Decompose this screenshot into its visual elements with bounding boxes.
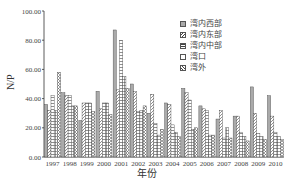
bar xyxy=(216,119,219,157)
x-tick-label: 1998 xyxy=(63,160,78,168)
bar xyxy=(75,106,78,157)
bar xyxy=(229,138,232,157)
bar xyxy=(202,109,205,157)
bar xyxy=(205,110,208,157)
y-tick-label: 20.00 xyxy=(25,124,41,132)
x-tick-label: 2006 xyxy=(200,160,215,168)
bar xyxy=(102,103,105,157)
bar xyxy=(236,116,239,157)
bar xyxy=(133,91,136,157)
bar xyxy=(219,110,222,157)
x-tick-label: 2003 xyxy=(148,160,163,168)
bar xyxy=(85,103,88,157)
bar xyxy=(222,138,225,157)
bar xyxy=(233,116,236,157)
bar xyxy=(212,135,215,157)
y-tick-label: 0.00 xyxy=(29,154,42,162)
bar xyxy=(277,137,280,157)
x-tick-label: 2000 xyxy=(97,160,112,168)
bar xyxy=(267,96,270,157)
bar xyxy=(140,110,143,157)
bar xyxy=(62,93,65,157)
bar xyxy=(109,115,112,157)
bar xyxy=(143,106,146,157)
bar xyxy=(151,94,154,157)
bar xyxy=(147,113,150,157)
bar xyxy=(274,132,277,157)
bar xyxy=(57,72,60,157)
bar xyxy=(157,135,160,157)
legend-swatch-icon xyxy=(180,32,186,38)
bar xyxy=(126,88,129,157)
bar xyxy=(243,137,246,157)
legend-item: 湾内西部 xyxy=(180,18,222,29)
bar xyxy=(51,96,54,157)
legend-item: 湾内东部 xyxy=(180,29,222,40)
y-tick-label: 100.00 xyxy=(22,8,42,16)
bar xyxy=(116,90,119,157)
legend-swatch-icon xyxy=(180,21,186,27)
bar xyxy=(120,40,123,157)
bar xyxy=(182,88,185,157)
bar xyxy=(191,129,194,157)
bar xyxy=(171,125,174,157)
bar xyxy=(113,30,116,157)
bar xyxy=(177,137,180,157)
legend-swatch-icon xyxy=(180,54,186,60)
bar xyxy=(257,134,260,157)
legend-item: 湾口 xyxy=(180,51,222,62)
bar xyxy=(82,103,85,157)
legend-swatch-icon xyxy=(180,43,186,49)
legend-swatch-icon xyxy=(180,65,186,71)
bar xyxy=(226,128,229,157)
y-tick-label: 40.00 xyxy=(25,95,41,103)
bar xyxy=(137,112,140,157)
x-tick-label: 2002 xyxy=(131,160,146,168)
x-axis-label: 年份 xyxy=(137,167,157,179)
bar xyxy=(154,123,157,157)
x-tick-label: 2010 xyxy=(268,160,283,168)
bar-chart: 0.0020.0040.0060.0080.00100.00 199719981… xyxy=(0,0,291,183)
x-tick-label: 2008 xyxy=(234,160,249,168)
bar xyxy=(208,135,211,157)
bar xyxy=(240,132,243,157)
y-tick-label: 80.00 xyxy=(25,37,41,45)
x-tick-label: 1999 xyxy=(80,160,95,168)
bar xyxy=(92,112,95,157)
bar xyxy=(185,93,188,157)
y-axis-label: N/P xyxy=(5,74,16,90)
bar xyxy=(271,116,274,157)
x-tick-label: 2001 xyxy=(114,160,129,168)
bar xyxy=(99,109,102,157)
bar xyxy=(71,106,74,157)
bar xyxy=(45,104,48,157)
bar xyxy=(106,103,109,157)
x-tick-label: 2007 xyxy=(217,160,232,168)
bar xyxy=(130,84,133,157)
x-tick-labels: 1997199819992000200120022003200420052006… xyxy=(46,160,283,168)
bar xyxy=(48,110,51,157)
bar xyxy=(280,139,283,157)
bar xyxy=(65,96,68,157)
bar xyxy=(68,96,71,157)
bar xyxy=(88,103,91,157)
bar xyxy=(195,128,198,157)
bar xyxy=(160,129,163,157)
bar xyxy=(96,91,99,157)
legend-item: 湾外 xyxy=(180,62,222,73)
x-tick-label: 2005 xyxy=(183,160,198,168)
bar xyxy=(54,110,57,157)
legend: 湾内西部 湾内东部 湾内中部 湾口 湾外 xyxy=(180,18,222,73)
y-tick-label: 60.00 xyxy=(25,66,41,74)
bar xyxy=(246,141,249,157)
bar xyxy=(79,121,82,158)
bar xyxy=(188,100,191,157)
bars xyxy=(45,30,284,157)
bar xyxy=(253,113,256,157)
bar xyxy=(250,87,253,157)
x-tick-label: 2009 xyxy=(251,160,266,168)
bar xyxy=(174,132,177,157)
bar xyxy=(199,106,202,157)
bar xyxy=(165,103,168,157)
bar xyxy=(168,104,171,157)
